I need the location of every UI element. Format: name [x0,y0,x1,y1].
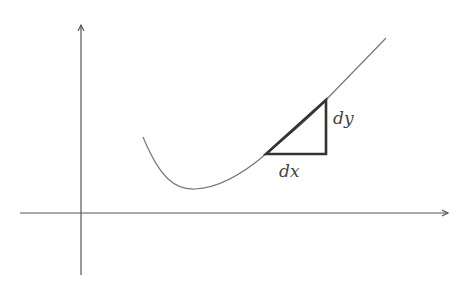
slope-triangle [266,100,326,154]
diagram-canvas: dx dy [0,0,470,286]
dy-label: dy [333,108,354,128]
dx-label: dx [279,161,300,181]
